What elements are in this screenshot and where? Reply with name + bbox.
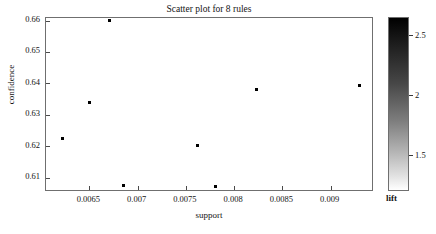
colorbar-tick-label: 2 — [415, 91, 419, 100]
data-point — [196, 144, 199, 147]
data-point — [108, 19, 111, 22]
y-tick-mark — [46, 178, 50, 179]
x-tick-label: 0.0065 — [65, 195, 111, 204]
y-tick-label: 0.66 — [6, 15, 40, 24]
plot-area — [45, 17, 373, 191]
colorbar-tick-label: 1.5 — [415, 151, 426, 160]
scatter-plot-figure: Scatter plot for 8 rules support confide… — [0, 0, 436, 234]
y-tick-label: 0.63 — [6, 109, 40, 118]
x-tick-mark — [331, 186, 332, 190]
colorbar-tick-mark — [409, 35, 413, 36]
x-tick-label: 0.0085 — [258, 195, 304, 204]
data-point — [358, 84, 361, 87]
colorbar-title: lift — [386, 193, 426, 204]
y-tick-mark — [46, 115, 50, 116]
data-point — [255, 88, 258, 91]
colorbar-gradient — [388, 17, 409, 191]
x-tick-mark — [186, 186, 187, 190]
x-tick-label: 0.0075 — [162, 195, 208, 204]
x-tick-mark — [138, 186, 139, 190]
colorbar-tick-mark — [409, 155, 413, 156]
x-tick-mark — [282, 186, 283, 190]
data-point — [88, 101, 91, 104]
x-tick-mark — [234, 186, 235, 190]
y-tick-label: 0.62 — [6, 141, 40, 150]
data-point — [214, 185, 217, 188]
x-tick-label: 0.008 — [210, 195, 256, 204]
y-tick-mark — [46, 83, 50, 84]
colorbar-tick-label: 2.5 — [415, 31, 426, 40]
y-tick-label: 0.65 — [6, 46, 40, 55]
x-tick-label: 0.009 — [307, 195, 353, 204]
colorbar: 1.522.5 — [388, 17, 409, 191]
x-tick-label: 0.007 — [114, 195, 160, 204]
y-tick-label: 0.61 — [6, 172, 40, 181]
y-tick-label: 0.64 — [6, 78, 40, 87]
x-tick-mark — [89, 186, 90, 190]
page-title: Scatter plot for 8 rules — [45, 3, 373, 15]
x-axis-label: support — [45, 210, 373, 221]
y-tick-mark — [46, 52, 50, 53]
data-point — [122, 184, 125, 187]
y-tick-mark — [46, 146, 50, 147]
y-tick-mark — [46, 21, 50, 22]
data-point — [61, 137, 64, 140]
colorbar-tick-mark — [409, 95, 413, 96]
